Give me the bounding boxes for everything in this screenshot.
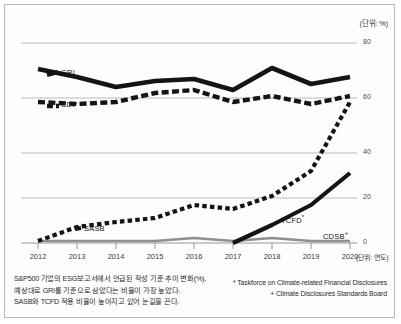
plot-area: (단위: %) 80 60 40 20 0 bbox=[5, 5, 396, 267]
series-label-cdsb-text: CDSB bbox=[323, 232, 345, 241]
series-label-tcfd-text: TCFD bbox=[281, 216, 302, 225]
x-axis-unit-label: (단위: 연도) bbox=[356, 252, 389, 262]
x-tick-2014: 2014 bbox=[101, 252, 131, 261]
series-label-sasb: SASB bbox=[84, 224, 105, 233]
x-tick-2015: 2015 bbox=[140, 252, 170, 261]
tcfd-footnote-marker: * bbox=[302, 214, 305, 220]
legend-swatch-gri bbox=[47, 72, 58, 75]
legend-swatch-sasb bbox=[75, 228, 81, 229]
x-tick-2019: 2019 bbox=[296, 252, 326, 261]
x-tick-2012: 2012 bbox=[23, 252, 53, 261]
series-label-gri: GRI bbox=[61, 68, 75, 77]
series-label-cdp: CDP bbox=[61, 100, 77, 109]
series-label-cdsb: CDSB+ bbox=[323, 230, 348, 241]
series-line-gri bbox=[38, 68, 350, 90]
series-line-cdp bbox=[38, 90, 350, 104]
x-axis-ticks bbox=[38, 243, 350, 249]
cdsb-footnote-marker: + bbox=[345, 230, 349, 236]
x-tick-2013: 2013 bbox=[62, 252, 92, 261]
x-tick-2016: 2016 bbox=[179, 252, 209, 261]
x-tick-2017: 2017 bbox=[218, 252, 248, 261]
footnote-line-2: + Climate Disclosures Standards Board bbox=[192, 288, 387, 299]
chart-frame: (단위: %) 80 60 40 20 0 bbox=[4, 4, 395, 318]
series-line-cdsb bbox=[38, 238, 350, 241]
line-chart-svg bbox=[5, 5, 396, 267]
x-tick-2018: 2018 bbox=[257, 252, 287, 261]
series-label-tcfd: TCFD* bbox=[281, 214, 304, 225]
footnote-line-1: * Taskforce on Climate-related Financial… bbox=[192, 277, 387, 288]
footnote-text: * Taskforce on Climate-related Financial… bbox=[192, 277, 387, 299]
